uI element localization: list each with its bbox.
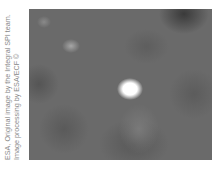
dark-patch <box>124 29 169 64</box>
dark-patch <box>169 69 212 119</box>
faint-source <box>62 39 80 53</box>
light-patch <box>119 104 159 154</box>
sky-image <box>29 9 212 160</box>
faint-source <box>37 16 51 28</box>
credit-line-2: Image processing by ESA/ECF © <box>12 0 21 160</box>
credit-line-1: ESA, Original image by the Integral SPI … <box>3 0 12 160</box>
dark-patch <box>39 104 89 154</box>
bright-source <box>117 78 143 100</box>
dark-patch <box>29 64 59 104</box>
dark-patch <box>159 9 209 34</box>
